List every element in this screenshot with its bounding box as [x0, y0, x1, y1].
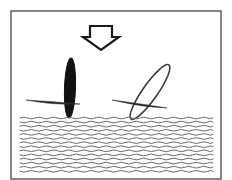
figure-container: Line drawing: a downward arrow above two… — [0, 0, 232, 180]
canvas-background — [0, 0, 232, 180]
diagram-canvas — [0, 0, 232, 180]
